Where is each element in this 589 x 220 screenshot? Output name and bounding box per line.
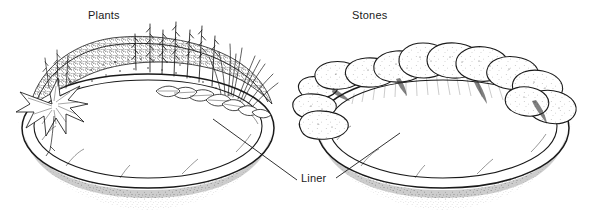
label-stones: Stones — [352, 9, 387, 21]
pond-edging-drawing — [0, 0, 589, 220]
label-liner: Liner — [301, 172, 326, 184]
label-plants: Plants — [88, 9, 120, 21]
stone — [299, 111, 348, 139]
illustration-figure: Plants Stones Liner — [0, 0, 589, 220]
